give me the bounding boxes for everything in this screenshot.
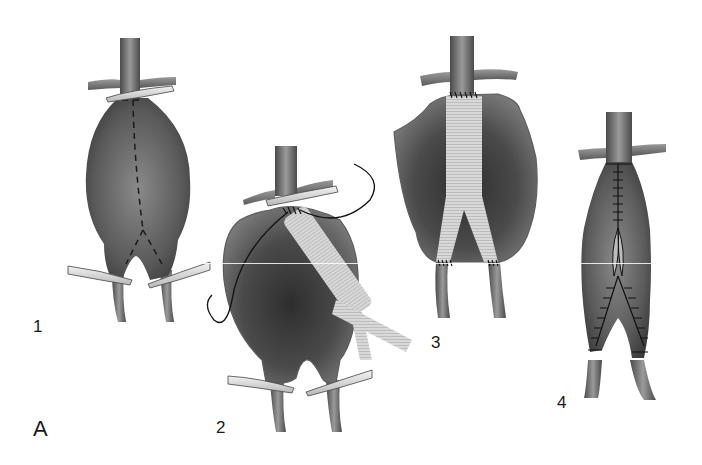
scan-artifact-line — [200, 263, 690, 264]
step-number-3: 3 — [431, 334, 440, 351]
figure-4-sac-closed — [578, 112, 666, 400]
step-number-4: 4 — [557, 394, 566, 411]
panel-label: A — [33, 418, 48, 440]
aneurysm-repair-illustration — [0, 0, 702, 465]
step-number-1: 1 — [33, 318, 42, 335]
figure-2-proximal-anastomosis — [207, 146, 412, 432]
figure-3-graft-in-place — [394, 36, 537, 318]
figure-1-aneurysm-clamped — [68, 38, 210, 322]
step-number-2: 2 — [216, 419, 225, 436]
